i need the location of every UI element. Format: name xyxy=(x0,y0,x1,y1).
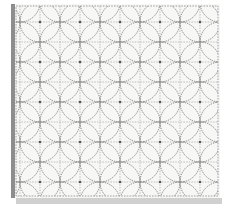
fabric-panel xyxy=(14,4,220,198)
fabric-fold-edge xyxy=(11,4,15,198)
sashiko-fabric-image xyxy=(0,0,230,211)
drop-shadow xyxy=(16,198,222,204)
